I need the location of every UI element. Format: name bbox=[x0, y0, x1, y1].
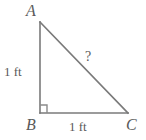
vertex-label-c: C bbox=[126, 117, 137, 133]
hypotenuse-unknown-label: ? bbox=[85, 50, 91, 64]
hypotenuse-line bbox=[40, 22, 128, 113]
vertex-label-a: A bbox=[26, 3, 36, 19]
bottom-leg-length-label: 1 ft bbox=[69, 120, 87, 133]
right-angle-marker-icon bbox=[40, 105, 47, 113]
right-triangle-figure: A B C 1 ft 1 ft ? bbox=[0, 0, 146, 140]
left-leg-length-label: 1 ft bbox=[4, 65, 22, 78]
vertex-label-b: B bbox=[26, 117, 36, 133]
